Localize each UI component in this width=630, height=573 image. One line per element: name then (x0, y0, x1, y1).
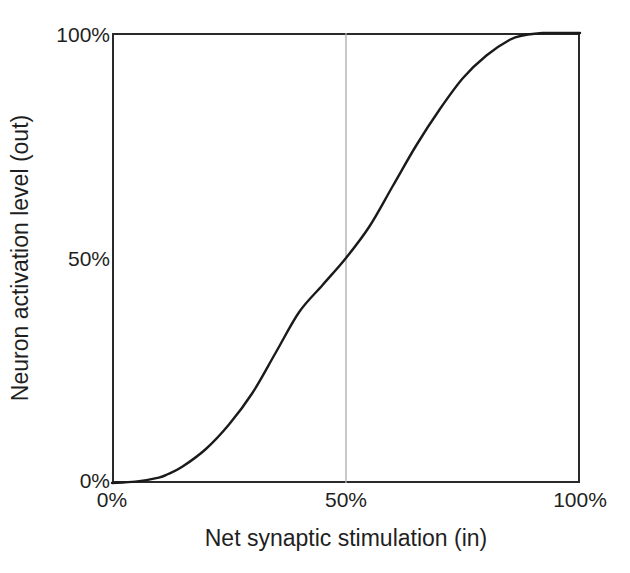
y-axis-title-container: Neuron activation level (out) (0, 33, 40, 483)
y-axis-title: Neuron activation level (out) (9, 115, 32, 401)
plot-canvas (112, 33, 580, 483)
x-axis-title: Net synaptic stimulation (in) (112, 527, 580, 550)
x-tick-label-100: 100% (510, 489, 630, 510)
x-tick-label-50: 50% (276, 489, 416, 510)
chart-figure: 100% 50% 0% 0% 50% 100% Net synaptic sti… (0, 0, 630, 573)
x-tick-label-0: 0% (42, 489, 182, 510)
